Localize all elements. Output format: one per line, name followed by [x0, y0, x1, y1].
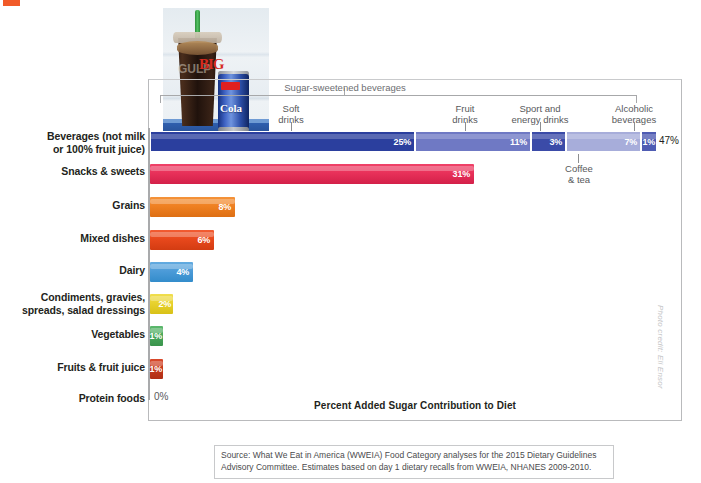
bar-segment-alcoholic-value: 1%: [642, 137, 655, 147]
annotation-soft-drinks-line1: Soft: [261, 103, 321, 114]
x-axis-title: Percent Added Sugar Contribution to Diet: [148, 400, 682, 411]
bar-segment-coffee-tea-value: 7%: [624, 137, 637, 147]
bar-grains-value: 8%: [218, 202, 231, 212]
bar-segment-fruit-drinks-value: 11%: [510, 137, 527, 147]
source-note: Source: What We Eat in America (WWEIA) F…: [214, 445, 614, 479]
category-label-vegetables: Vegetables: [91, 328, 145, 341]
category-label-beverages-line1: Beverages (not milk: [47, 130, 145, 143]
bar-mixed-dishes-value: 6%: [197, 235, 210, 245]
category-label-grains: Grains: [112, 199, 145, 212]
bar-grains[interactable]: 8%: [150, 197, 235, 217]
bar-snacks-sweets[interactable]: 31%: [150, 164, 474, 184]
cup-drink-surface: [177, 41, 218, 55]
tick-fruit-drinks: [465, 122, 466, 131]
bar-condiments[interactable]: 2%: [150, 294, 173, 314]
annotation-fruit-drinks-line1: Fruit: [440, 103, 490, 114]
bar-segment-sport-energy-value: 3%: [549, 137, 562, 147]
bar-segment-alcoholic[interactable]: 1%: [641, 131, 657, 152]
bar-fruits-fruit-juice[interactable]: 1%: [150, 359, 163, 379]
tick-alcoholic: [634, 122, 635, 131]
segment-highlight-soft: [151, 134, 414, 139]
bar-beverages-total-value: 47%: [659, 135, 679, 146]
bar-mixed-dishes[interactable]: 6%: [150, 230, 214, 250]
bar-vegetables-value: 1%: [149, 331, 162, 341]
bar-segment-fruit-drinks[interactable]: 11%: [415, 131, 531, 152]
sugar-sweetened-bracket: [160, 95, 637, 103]
bar-dairy[interactable]: 4%: [150, 262, 193, 282]
bar-dairy-value: 4%: [176, 267, 189, 277]
annotation-sport-energy-line1: Sport and: [501, 103, 579, 114]
bar-highlight-snacks: [150, 166, 474, 171]
tick-soft-drinks: [291, 122, 292, 131]
bar-segment-sport-energy[interactable]: 3%: [531, 131, 566, 152]
bracket-label: Sugar-sweetened beverages: [250, 82, 440, 93]
annotation-alcoholic-line1: Alcoholic: [600, 103, 668, 114]
annotation-coffee-tea: Coffee & tea: [548, 163, 610, 185]
bar-segment-soft-drinks[interactable]: 25%: [150, 131, 415, 152]
category-label-beverages: Beverages (not milk or 100% fruit juice): [47, 130, 145, 155]
bar-vegetables[interactable]: 1%: [150, 326, 163, 346]
bar-fruits-fruit-juice-value: 1%: [149, 364, 162, 374]
tick-coffee-tea: [578, 154, 579, 163]
corner-crop-mark: [3, 0, 20, 6]
bar-segment-soft-drinks-value: 25%: [394, 137, 411, 147]
annotation-coffee-tea-line2: & tea: [548, 174, 610, 185]
annotation-coffee-tea-line1: Coffee: [548, 163, 610, 174]
category-label-protein: Protein foods: [79, 392, 145, 405]
bar-segment-coffee-tea[interactable]: 7%: [566, 131, 641, 152]
cup-brand-right: BIG: [199, 58, 224, 71]
category-label-snacks: Snacks & sweets: [61, 165, 145, 178]
bar-condiments-value: 2%: [158, 299, 171, 309]
category-label-beverages-line2: or 100% fruit juice): [47, 143, 145, 156]
category-label-mixed-dishes: Mixed dishes: [80, 232, 145, 245]
category-label-condiments-line1: Condiments, gravies,: [22, 291, 145, 304]
category-label-condiments: Condiments, gravies, spreads, salad dres…: [22, 291, 145, 316]
category-label-dairy: Dairy: [119, 264, 145, 277]
category-label-condiments-line2: spreads, salad dressings: [22, 304, 145, 317]
tick-sport-energy: [540, 122, 541, 131]
photo-credit: Photo credit: Eli Ensor: [656, 305, 665, 389]
bar-snacks-sweets-value: 31%: [453, 169, 470, 179]
category-label-fruits: Fruits & fruit juice: [57, 361, 145, 374]
